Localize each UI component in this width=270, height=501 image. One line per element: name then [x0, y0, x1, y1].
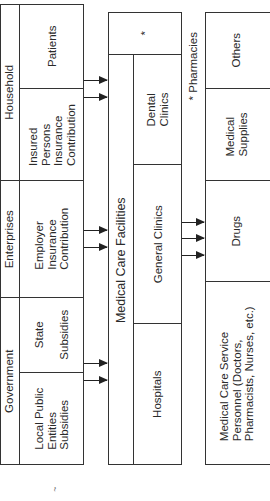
resource-personnel-label: Medical Care Service Personnel (Doctors,…	[218, 306, 256, 441]
facility-dental-label: Dental Clinics	[146, 93, 171, 127]
label-line: Persons	[39, 103, 52, 165]
label-line: Patients	[46, 25, 59, 67]
funding-insured-persons-cell: Insured Persons Insurance Contribution	[20, 89, 84, 180]
label-line: Personnel (Doctors,	[230, 306, 243, 441]
facility-general-cell: General Clinics	[134, 165, 182, 323]
arrow-government-2	[84, 380, 107, 381]
facilities-star-cell: *	[108, 12, 182, 54]
facilities-title-cell: Medical Care Facilities	[108, 55, 133, 465]
resource-supplies-label: Medical Supplies	[224, 112, 249, 156]
resource-drugs-label: Drugs	[230, 216, 243, 247]
facility-general-label: General Clinics	[152, 205, 165, 283]
label-line: Subsidies	[58, 388, 71, 450]
funding-insured-persons-label: Insured Persons Insurance Contribution	[27, 103, 77, 165]
label-line: Dental	[146, 93, 159, 127]
resource-others-label: Others	[230, 33, 243, 68]
funding-patients-label: Patients	[46, 25, 59, 67]
label-line: Contribution	[58, 208, 71, 270]
arrow-to-drugs-3	[182, 255, 204, 256]
label-line: Clinics	[158, 93, 171, 127]
group-enterprises-cell: Enterprises	[0, 181, 19, 297]
label-line: Insurance	[46, 208, 59, 270]
funding-patients-cell: Patients	[20, 4, 84, 88]
arrow-enterprises-1	[84, 230, 107, 231]
label-line: Local Public	[33, 388, 46, 450]
label-line: Medical	[224, 112, 237, 156]
label-line: Medical Care Service	[218, 306, 231, 441]
group-government-cell: Government	[0, 298, 19, 465]
facilities-star-label: *	[139, 31, 152, 35]
label-line: Subsidies	[58, 310, 71, 360]
resource-personnel-cell: Medical Care Service Personnel (Doctors,…	[205, 282, 268, 465]
funding-state-label: State Subsidies	[33, 310, 71, 360]
group-enterprises-label: Enterprises	[3, 210, 16, 268]
label-line: Pharmacists, Nurses, etc.)	[243, 306, 256, 441]
label-line: Employer	[33, 208, 46, 270]
footnote-cell: * Pharmacies	[184, 20, 202, 112]
group-household-label: Household	[3, 65, 16, 120]
funding-local-cell: Local Public Entities Subsidies	[20, 373, 84, 465]
group-government-label: Government	[3, 350, 16, 413]
facility-hospitals-label: Hospitals	[152, 371, 165, 418]
group-household-cell: Household	[0, 4, 19, 180]
label-line: Contribution	[64, 103, 77, 165]
arrow-household-2	[84, 97, 107, 98]
arrow-government-1	[84, 363, 107, 364]
label-line: Insurance	[52, 103, 65, 165]
label-line: Entities	[46, 388, 59, 450]
bottom-mark: ~	[50, 486, 60, 491]
label-spacer	[46, 310, 59, 360]
resource-others-cell: Others	[205, 12, 268, 88]
facility-dental-cell: Dental Clinics	[134, 55, 182, 164]
funding-employer-cell: Employer Insurance Contribution	[20, 181, 84, 297]
arrow-to-drugs-1	[182, 222, 204, 223]
footnote-pharmacies: * Pharmacies	[187, 32, 200, 100]
label-line: State	[33, 310, 46, 360]
facility-hospitals-cell: Hospitals	[134, 324, 182, 465]
arrow-to-drugs-2	[182, 238, 204, 239]
label-line: Supplies	[237, 112, 250, 156]
arrow-enterprises-2	[84, 247, 107, 248]
resource-drugs-cell: Drugs	[205, 181, 268, 281]
resource-supplies-cell: Medical Supplies	[205, 89, 268, 180]
arrow-household-1	[84, 80, 107, 81]
label-line: Insured	[27, 103, 40, 165]
funding-local-label: Local Public Entities Subsidies	[33, 388, 71, 450]
facilities-title: Medical Care Facilities	[114, 197, 127, 323]
funding-state-cell: State Subsidies	[20, 298, 84, 372]
funding-employer-label: Employer Insurance Contribution	[33, 208, 71, 270]
